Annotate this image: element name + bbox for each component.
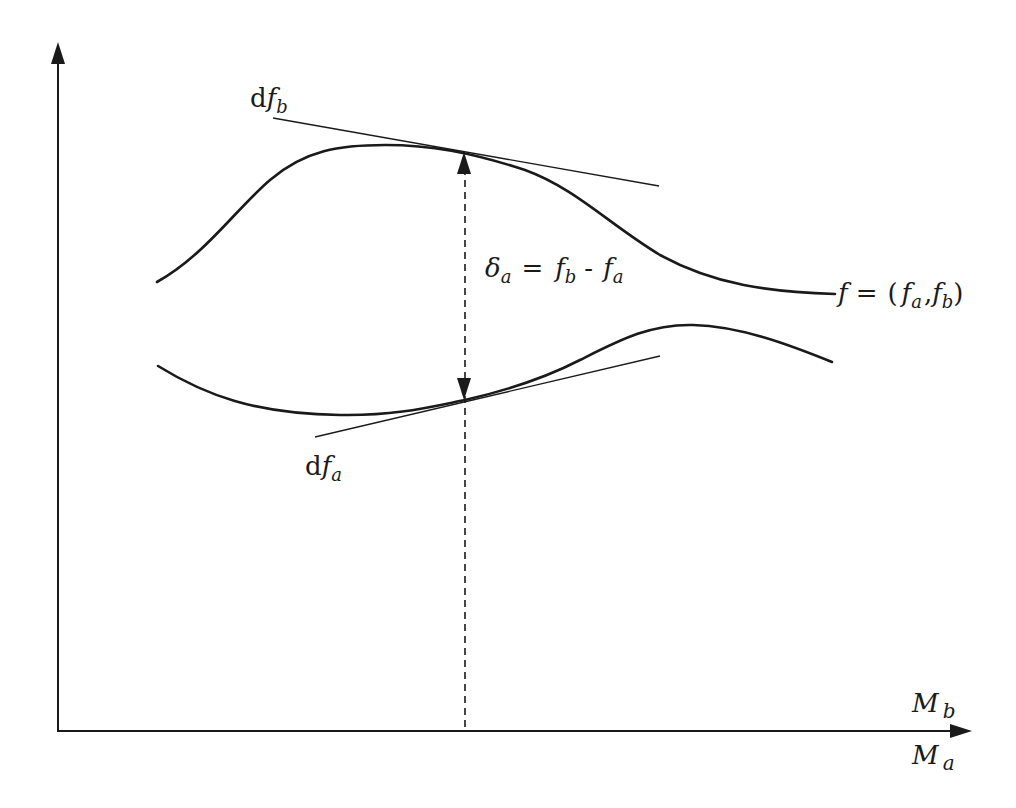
label-df-a: dfa <box>305 451 342 485</box>
eq-delta-sub: a <box>501 266 512 287</box>
x-axis-label-top: Mb <box>911 688 955 723</box>
axes <box>51 42 972 738</box>
x-axis-arrow-icon <box>950 724 972 738</box>
function-diagram: dfb dfa δa=fb-fa f=(fa,fb) Mb Ma <box>0 0 1016 808</box>
eq-equals: = <box>521 253 543 283</box>
gap-equation: δa=fb-fa <box>485 253 624 287</box>
y-axis-arrow-icon <box>51 42 65 64</box>
x-axis-label-bottom: Ma <box>911 740 955 775</box>
label-df-b: dfb <box>250 83 288 117</box>
gap-indicator <box>457 152 471 730</box>
fn-f: f <box>836 278 852 308</box>
fn-fb-sub: b <box>942 291 954 312</box>
fn-fa-sub: a <box>911 291 922 312</box>
eq-delta: δ <box>485 253 501 283</box>
eq-fb-sub: b <box>565 266 577 287</box>
fn-close-paren: ) <box>953 278 963 308</box>
label-df-b-sub: b <box>276 96 288 117</box>
fn-comma: , <box>924 278 932 308</box>
fn-open-paren: ( <box>887 278 897 308</box>
lower-curve <box>158 325 832 415</box>
eq-fa-sub: a <box>613 266 624 287</box>
label-df-a-prefix: d <box>305 451 322 481</box>
tangent-df-b <box>273 118 659 186</box>
gap-arrow-down-icon <box>457 378 471 400</box>
ma-base: M <box>911 740 940 770</box>
mb-base: M <box>911 688 940 718</box>
eq-minus: - <box>584 253 593 283</box>
mb-sub: b <box>943 699 956 723</box>
ma-sub: a <box>943 751 955 775</box>
tangent-df-a <box>315 356 660 437</box>
label-df-a-sub: a <box>331 464 342 485</box>
function-label: f=(fa,fb) <box>836 278 964 312</box>
fn-equals: = <box>856 278 878 308</box>
label-df-b-prefix: d <box>250 83 267 113</box>
